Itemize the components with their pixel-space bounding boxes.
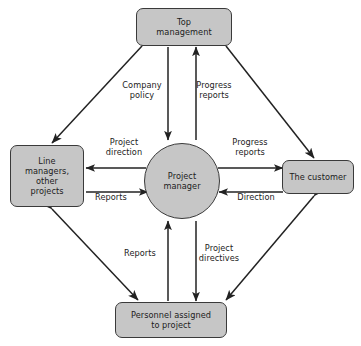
node-personnel-assigned-label: Personnel assigned to project [131,310,211,330]
node-line-managers-label: Line managers, other projects [25,156,69,197]
node-the-customer[interactable]: The customer [282,160,354,194]
label-project-direction: Project direction [96,137,152,158]
label-reports-left: Reports [90,192,132,202]
node-the-customer-label: The customer [290,172,347,182]
label-project-directives: Project directives [190,243,248,264]
node-project-manager[interactable]: Project manager [144,143,220,219]
label-reports-bottom: Reports [118,248,162,258]
label-direction: Direction [232,192,280,202]
label-progress-reports-right: Progress reports [222,137,278,158]
label-progress-reports-top: Progress reports [188,80,240,101]
node-project-manager-label: Project manager [163,171,200,191]
node-top-management-label: Top management [156,17,211,37]
project-communication-diagram: Top management Line managers, other proj… [0,0,361,346]
label-company-policy: Company policy [116,80,168,101]
node-personnel-assigned[interactable]: Personnel assigned to project [115,302,227,338]
node-line-managers[interactable]: Line managers, other projects [10,145,84,207]
node-top-management[interactable]: Top management [136,8,232,46]
